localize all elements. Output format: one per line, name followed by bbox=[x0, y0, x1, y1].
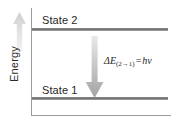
x-axis-line bbox=[31, 115, 171, 116]
equation-subscript-arrow: → bbox=[122, 60, 129, 68]
transition-equation: ΔE(2→1)=hν bbox=[104, 55, 152, 68]
energy-level-diagram: Energy State 2 State 1 ΔE(2→1)=hν bbox=[0, 0, 180, 124]
energy-level-label-state-1: State 1 bbox=[42, 84, 78, 96]
equation-frequency: ν bbox=[147, 55, 151, 66]
down-arrow-icon bbox=[84, 36, 106, 98]
energy-level-label-state-2: State 2 bbox=[42, 14, 78, 26]
y-axis-label: Energy bbox=[8, 34, 20, 94]
energy-level-state-2 bbox=[32, 28, 168, 31]
